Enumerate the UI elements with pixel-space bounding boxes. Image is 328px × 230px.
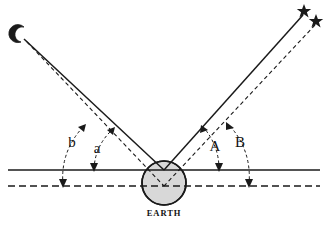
earth-label: EARTH (147, 208, 181, 218)
star-shape-lower (309, 14, 323, 27)
solid-ray-group (24, 15, 303, 170)
angle-arc-B-arrowhead-top (226, 122, 234, 130)
star-icon-lower (309, 14, 323, 27)
star-ray-dashed (164, 25, 315, 186)
angle-label-B: B (235, 134, 245, 150)
star-icon-upper (297, 4, 311, 17)
astronomical-refraction-diagram: b a A B EARTH (0, 0, 328, 230)
angle-label-a: a (94, 140, 101, 156)
crescent-moon-shape (9, 25, 24, 43)
angle-label-A: A (210, 138, 221, 154)
star-shape-upper (297, 4, 311, 17)
crescent-moon-icon (9, 25, 24, 43)
star-ray-solid (164, 15, 303, 170)
angle-label-b: b (68, 134, 76, 150)
